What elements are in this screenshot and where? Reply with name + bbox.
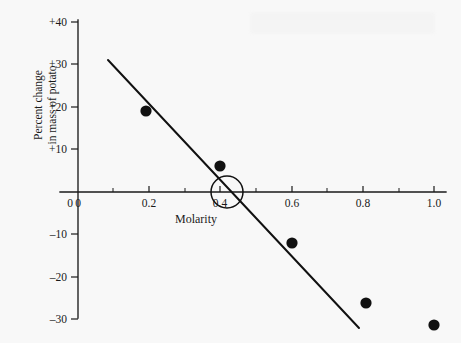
y-axis-ticks: [71, 22, 78, 319]
x-tick-label: 0: [75, 197, 81, 209]
y-axis-tick-labels: +40 +30 +20 +10 0 –10 –20 –30: [49, 16, 74, 325]
x-tick-label: 0.6: [285, 197, 300, 209]
y-tick-label: +30: [49, 58, 67, 70]
best-fit-line: [108, 60, 359, 328]
axes: [60, 20, 446, 318]
y-tick-label-zero: 0: [67, 197, 73, 209]
y-tick-label: +20: [49, 101, 67, 113]
data-point: [360, 297, 371, 308]
data-point: [428, 319, 439, 330]
data-point: [286, 237, 297, 248]
chart-svg: Percent change in mass of potato +40 +30…: [0, 0, 461, 343]
y-tick-label: –10: [49, 228, 68, 240]
y-axis-title-line1: Percent change: [32, 70, 45, 140]
data-point: [214, 160, 225, 171]
osmosis-scatter-chart: Percent change in mass of potato +40 +30…: [0, 0, 461, 343]
x-axis-title: Molarity: [175, 212, 217, 226]
x-tick-label: 0.8: [356, 197, 371, 209]
x-tick-label: 0.2: [142, 197, 157, 209]
data-point: [140, 105, 151, 116]
y-tick-label: +40: [49, 16, 67, 28]
y-tick-label: +10: [49, 143, 67, 155]
x-axis-ticks: [149, 186, 434, 192]
y-tick-label: –20: [49, 271, 68, 283]
x-axis-tick-labels: 0 0.2 0.4 0.6 0.8 1.0: [75, 197, 441, 209]
y-tick-label: –30: [49, 313, 68, 325]
x-tick-label: 1.0: [427, 197, 442, 209]
